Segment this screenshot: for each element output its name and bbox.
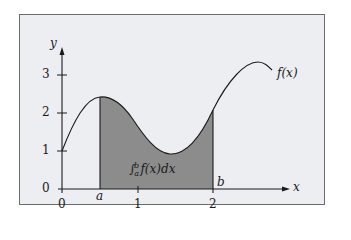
- integral-upper: b: [134, 161, 139, 170]
- integrand: f(x)dx: [140, 162, 175, 176]
- integral-label: ∫ab f(x)dx: [129, 161, 175, 178]
- y-axis-label: y: [50, 36, 57, 50]
- y-tick-0: 0: [42, 181, 50, 195]
- y-tick-3: 3: [42, 67, 50, 81]
- y-tick-1: 1: [42, 143, 50, 157]
- y-tick-2: 2: [42, 105, 50, 119]
- x-tick-1: 1: [134, 197, 142, 211]
- x-axis-label: x: [293, 180, 300, 194]
- function-label: f(x): [277, 66, 298, 80]
- point-a-label: a: [96, 189, 103, 203]
- x-tick-0: 0: [58, 197, 66, 211]
- point-b-label: b: [217, 175, 225, 189]
- integral-lower: a: [134, 169, 139, 178]
- x-tick-2: 2: [209, 197, 217, 211]
